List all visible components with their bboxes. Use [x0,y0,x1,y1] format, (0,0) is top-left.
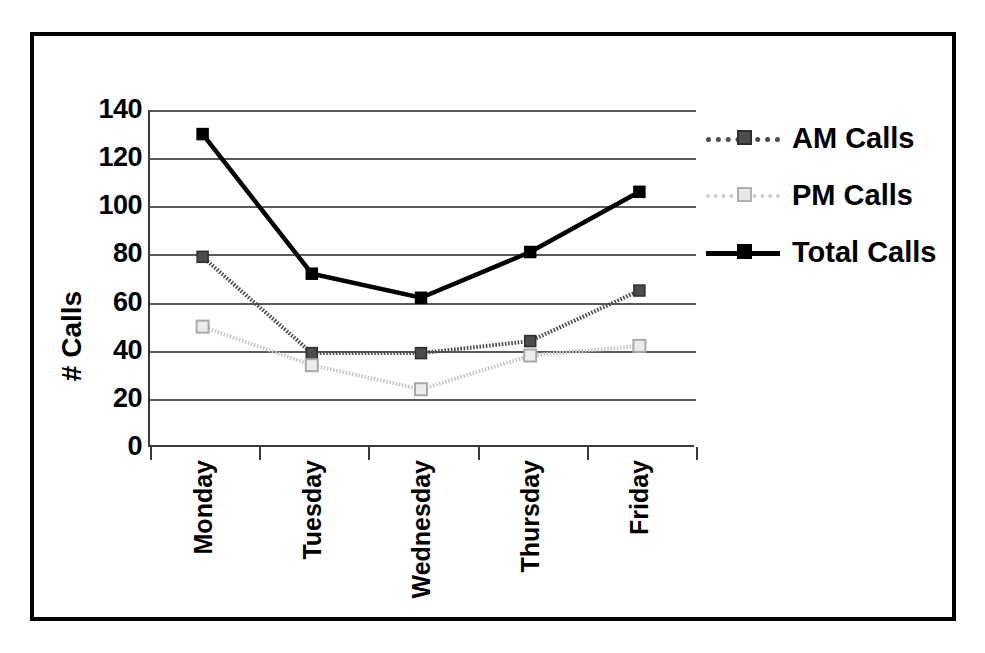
series-total-calls [197,129,645,304]
data-point-wednesday [416,348,427,359]
series-line [203,257,640,353]
x-axis-tick-label-text: Friday [625,460,654,535]
x-axis-tick-0 [150,447,152,460]
legend-item-total-calls: Total Calls [706,228,956,276]
y-axis-tick-label-60: 60 [68,289,142,316]
data-point-friday [633,340,645,352]
data-series-layer [148,110,694,447]
y-axis-tick-label-80: 80 [68,240,142,267]
series-am-calls [197,251,645,358]
y-axis-tick-label-120: 120 [68,144,142,171]
total-series-key [706,239,780,265]
pm-series-marker-swatch [737,187,752,202]
x-axis-tick-label-thursday: Thursday [515,460,545,620]
x-axis-tick-labels: MondayTuesdayWednesdayThursdayFriday [148,460,694,620]
legend-item-pm-calls: PM Calls [706,171,956,219]
data-point-tuesday [306,268,317,279]
legend-label-pm-calls: PM Calls [792,181,913,210]
data-point-monday [197,321,209,333]
series-line [203,134,640,298]
y-axis-tick-label-100: 100 [68,192,142,219]
data-point-tuesday [306,359,318,371]
data-point-tuesday [306,348,317,359]
am-series-key [706,125,780,151]
x-axis-tick-label-text: Thursday [516,460,545,573]
data-point-monday [197,129,208,140]
data-point-thursday [525,247,536,258]
y-axis-tick-labels: 140120100806040200 [52,110,142,447]
am-series-marker-swatch [737,130,752,145]
legend-item-am-calls: AM Calls [706,114,956,162]
x-axis-tick-label-text: Wednesday [407,460,436,598]
legend-label-am-calls: AM Calls [792,124,914,153]
x-axis-tick-label-wednesday: Wednesday [406,460,436,620]
x-axis-tick-3 [478,447,480,460]
x-axis-tick-4 [587,447,589,460]
chart-page: # Calls 140120100806040200 MondayTuesday… [0,0,985,653]
data-point-wednesday [415,383,427,395]
x-axis-tick-label-tuesday: Tuesday [297,460,327,620]
x-axis-tick-label-text: Tuesday [297,460,326,560]
y-axis-tick-label-140: 140 [68,96,142,123]
data-point-friday [634,285,645,296]
x-axis-tick-1 [259,447,261,460]
data-point-thursday [525,336,536,347]
legend-label-total-calls: Total Calls [792,238,937,267]
x-axis-tick-label-monday: Monday [188,460,218,620]
y-axis-tick-label-20: 20 [68,385,142,412]
x-axis-tick-label-text: Monday [188,460,217,554]
x-axis-tick-label-friday: Friday [624,460,654,620]
chart-frame: # Calls 140120100806040200 MondayTuesday… [30,32,956,621]
y-axis-tick-label-40: 40 [68,337,142,364]
pm-series-key [706,182,780,208]
data-point-monday [197,251,208,262]
y-axis-tick-label-0: 0 [68,433,142,460]
chart-legend: AM Calls PM Calls Total Calls [706,114,956,285]
data-point-friday [634,186,645,197]
data-point-thursday [524,350,536,362]
total-series-marker-swatch [737,244,752,259]
data-point-wednesday [416,292,427,303]
x-axis-tick-5 [696,447,698,460]
x-axis-tick-2 [368,447,370,460]
